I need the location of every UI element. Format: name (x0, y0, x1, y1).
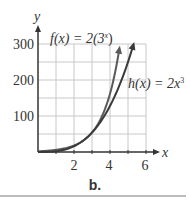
label-f: f(x) = 2(3x) (50, 31, 113, 47)
label-h: h(x) = 2x3 (128, 76, 184, 92)
x-tick-4: 4 (106, 158, 113, 173)
x-axis-arrow-icon (153, 149, 160, 155)
grid-lines (38, 44, 146, 152)
y-tick-100: 100 (13, 109, 34, 124)
x-tick-2: 2 (71, 158, 78, 173)
chart: y x 300 200 100 2 4 6 f(x) = 2(3x) h(x) … (0, 0, 190, 201)
curve-f (38, 49, 119, 152)
x-axis-label: x (161, 145, 169, 160)
curves (38, 42, 135, 152)
y-tick-200: 200 (13, 73, 34, 88)
y-axis-arrow-icon (35, 25, 41, 32)
curve-h-arrow-icon (129, 42, 136, 51)
figure-caption: b. (89, 177, 101, 193)
y-tick-300: 300 (13, 37, 34, 52)
x-tick-6: 6 (142, 158, 149, 173)
curve-f-arrow-icon (115, 46, 122, 54)
y-axis-label: y (32, 9, 41, 24)
